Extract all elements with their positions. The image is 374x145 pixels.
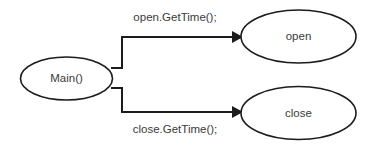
flow-diagram: open.GetTime(); close.GetTime(); Main() … [0, 0, 374, 145]
edge-label-close: close.GetTime(); [133, 123, 218, 135]
edge-label-open: open.GetTime(); [133, 11, 216, 23]
node-close-label: close [285, 107, 312, 119]
node-open-label: open [286, 30, 312, 42]
edge-main-to-open[interactable]: open.GetTime(); [111, 11, 243, 68]
diagram-canvas: open.GetTime(); close.GetTime(); Main() … [0, 0, 374, 145]
node-main[interactable]: Main() [21, 57, 113, 100]
node-open[interactable]: open [241, 10, 356, 63]
node-close[interactable]: close [241, 87, 356, 140]
node-main-label: Main() [50, 72, 83, 84]
edge-open-path [111, 37, 232, 68]
edge-close-path [111, 88, 232, 112]
edge-main-to-close[interactable]: close.GetTime(); [111, 88, 243, 135]
